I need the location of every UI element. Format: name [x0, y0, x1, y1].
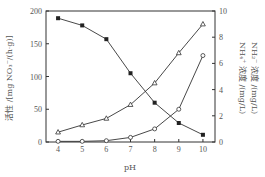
x-tick-label: 6 — [104, 145, 108, 154]
series-0 — [56, 16, 205, 137]
left-tick-label: 50 — [34, 105, 42, 114]
data-point — [201, 22, 206, 26]
data-point — [201, 54, 205, 58]
chart: 45678910 050100150200 0246810 pH 活性 /[mg… — [0, 0, 265, 177]
right-axis-ticks: 0246810 — [212, 7, 227, 147]
right-tick-label: 6 — [219, 59, 223, 68]
plot-frame — [46, 11, 215, 142]
left-tick-label: 100 — [30, 73, 42, 82]
data-point — [129, 71, 133, 75]
right-axis-title-2: NH₂⁻ 浓度 /(mg/L) — [250, 42, 260, 114]
series-group — [56, 16, 206, 143]
x-tick-label: 7 — [129, 145, 133, 154]
right-axis-title-1: NH₄⁺ 浓度 /(mg/L) — [238, 42, 248, 114]
right-tick-label: 2 — [219, 112, 223, 121]
x-tick-label: 5 — [80, 145, 84, 154]
data-point — [177, 121, 181, 125]
right-tick-label: 8 — [219, 33, 223, 42]
data-point — [56, 139, 60, 143]
x-tick-label: 9 — [177, 145, 181, 154]
series-1 — [56, 22, 206, 134]
data-point — [104, 116, 109, 120]
data-point — [104, 139, 108, 143]
left-tick-label: 0 — [38, 138, 42, 147]
right-tick-label: 0 — [219, 138, 223, 147]
data-point — [153, 101, 157, 105]
x-tick-label: 8 — [153, 145, 157, 154]
data-point — [153, 127, 157, 131]
data-point — [80, 23, 84, 27]
left-axis-title: 活性 /[mg NO₃⁻/(h·g)] — [4, 35, 14, 120]
right-tick-label: 4 — [219, 86, 223, 95]
right-tick-label: 10 — [219, 7, 227, 16]
x-axis-title: pH — [124, 163, 136, 172]
series-2 — [56, 54, 205, 144]
data-point — [177, 107, 181, 111]
data-point — [129, 135, 133, 139]
data-point — [201, 133, 205, 137]
x-tick-label: 4 — [56, 145, 60, 154]
left-tick-label: 200 — [30, 7, 42, 16]
left-tick-label: 150 — [30, 40, 42, 49]
x-tick-label: 10 — [199, 145, 207, 154]
data-point — [104, 37, 108, 41]
data-point — [80, 139, 84, 143]
data-point — [56, 16, 60, 20]
